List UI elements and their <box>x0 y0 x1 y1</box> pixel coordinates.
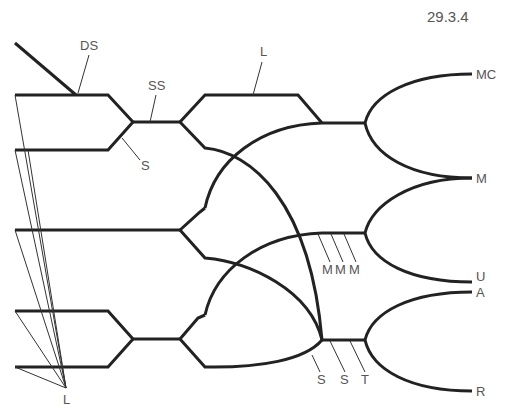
m-branch-upper <box>365 123 472 178</box>
bottom-lower-split <box>180 339 322 367</box>
label-ss: SS <box>148 78 166 93</box>
middle-upper-split <box>180 208 205 230</box>
l-fan-leaders <box>15 95 66 388</box>
top-upper-branch <box>180 95 322 123</box>
label-s-lower-2: S <box>340 372 349 387</box>
label-u: U <box>476 269 485 284</box>
label-m2: M <box>335 262 346 277</box>
r-branch <box>365 340 472 391</box>
bottom-upper-split <box>180 315 205 339</box>
label-m3: M <box>349 262 360 277</box>
l-top-leader <box>253 62 262 95</box>
a-branch <box>365 292 472 340</box>
ds-leader <box>78 55 89 93</box>
figure-number: 29.3.4 <box>427 8 469 25</box>
label-l-top: L <box>260 44 267 59</box>
m-branch-lower <box>365 178 472 233</box>
ds-input-line <box>15 43 76 95</box>
mc-branch <box>365 74 472 123</box>
s-lower-1-leader <box>312 355 320 372</box>
label-a: A <box>476 285 485 300</box>
m3-leader <box>344 234 356 262</box>
bottom-left-fork <box>15 311 133 367</box>
m2-leader <box>331 234 343 262</box>
label-t: T <box>361 372 369 387</box>
label-l-bottom: L <box>63 392 70 407</box>
label-s-lower-1: S <box>317 372 326 387</box>
label-m: M <box>476 171 487 186</box>
ss-leader <box>150 95 156 122</box>
label-mc: MC <box>476 67 496 82</box>
top-left-fork <box>15 95 133 150</box>
t-leader <box>350 341 365 372</box>
label-s-upper: S <box>141 158 150 173</box>
m1-leader <box>318 234 330 262</box>
u-branch <box>365 233 472 282</box>
label-r: R <box>476 384 485 399</box>
upper-junction-line <box>205 123 365 208</box>
label-m1: M <box>322 262 333 277</box>
s-lower-2-leader <box>330 341 345 372</box>
pathway-diagram: 29.3.4 <box>0 0 508 417</box>
label-ds: DS <box>80 38 98 53</box>
middle-lower-split <box>180 230 322 340</box>
s-upper-leader <box>122 138 140 160</box>
top-lower-branch <box>180 122 322 340</box>
